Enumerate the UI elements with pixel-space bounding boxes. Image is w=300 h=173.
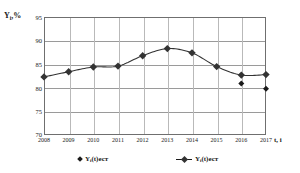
x-tick-label: 2008 [38, 136, 50, 144]
legend-label: Yi(t)ест [85, 155, 108, 163]
y-tick-label: 95 [36, 14, 43, 21]
data-point [90, 63, 97, 70]
data-point [164, 45, 171, 52]
y-tick-label: 75 [36, 108, 43, 115]
x-tick-label: 2009 [63, 136, 75, 144]
x-axis-label: t, i [274, 136, 282, 144]
legend-label-suffix: (t)ест [201, 155, 218, 163]
x-tick-label: 2017 [260, 136, 272, 144]
line-square-marker-icon [176, 157, 192, 162]
series-markers-square [40, 45, 269, 81]
x-axis-tick-labels: 2008 2009 2010 2011 2012 2013 2014 2015 … [0, 136, 300, 148]
data-point [114, 62, 121, 69]
data-point [262, 71, 269, 78]
legend-item-diamond: Yi(t)ест [78, 155, 108, 163]
legend-label: Yi(t)ест [195, 155, 218, 163]
data-point [65, 68, 72, 75]
x-tick-label: 2012 [137, 136, 149, 144]
y-tick-label: 85 [36, 61, 43, 68]
data-point [139, 52, 146, 59]
x-tick-label: 2016 [235, 136, 247, 144]
x-tick-label: 2015 [211, 136, 223, 144]
chart-figure: Yi,% 95 90 85 80 75 70 2008 2009 2010 20… [0, 0, 300, 173]
legend-item-line-square: Yi(t)ест [176, 155, 218, 163]
series-markers-diamond [238, 81, 269, 92]
data-series-layer [44, 17, 266, 135]
x-tick-label: 2010 [87, 136, 99, 144]
x-tick-label: 2014 [186, 136, 198, 144]
chart-legend: Yi(t)ест Yi(t)ест [0, 155, 300, 169]
series-line-forecast [44, 49, 266, 77]
data-point [213, 63, 220, 70]
data-point [238, 71, 245, 78]
x-tick-label: 2013 [161, 136, 173, 144]
diamond-marker-icon [77, 156, 83, 162]
data-point [263, 86, 269, 92]
data-point [238, 81, 244, 87]
data-point [188, 49, 195, 56]
legend-label-suffix: (t)ест [91, 155, 108, 163]
x-tick-label: 2011 [112, 136, 124, 144]
y-tick-label: 80 [36, 85, 43, 92]
y-tick-label: 90 [36, 37, 43, 44]
